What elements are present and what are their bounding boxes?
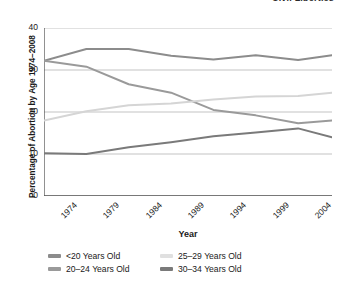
x-axis-title: Year [44,229,332,239]
x-tick-label-1994: 1994 [228,200,248,220]
y-tick-label-10: 10 [12,149,38,158]
x-tick-label-1989: 1989 [186,200,206,220]
y-tick-label-40: 40 [12,23,38,32]
legend-item-1: 25–29 Years Old [160,251,286,261]
y-tick-label-30: 30 [12,65,38,74]
series-line-2 [44,93,332,121]
x-tick-label-1984: 1984 [143,200,163,220]
legend-item-3: 30–34 Years Old [160,264,286,274]
abortion-by-age-line-chart: Civil Liberties Percentage of Abortion b… [0,0,344,281]
y-tick-label-20: 20 [12,107,38,116]
legend-swatch-icon [48,254,61,258]
legend-swatch-icon [160,254,173,258]
x-tick-label-1974: 1974 [59,200,79,220]
y-axis-tick-labels: 010203040 [8,28,38,196]
chart-legend: <20 Years Old25–29 Years Old20–24 Years … [48,249,298,275]
y-tick-label-0: 0 [12,191,38,200]
legend-item-0: <20 Years Old [48,251,160,261]
legend-item-label: <20 Years Old [66,251,120,261]
x-tick-label-1979: 1979 [101,200,121,220]
page-header-title: Civil Liberties [272,0,334,3]
x-tick-label-1999: 1999 [270,200,290,220]
legend-item-2: 20–24 Years Old [48,264,160,274]
x-axis-tick-labels: 19741979198419891994199920042008 [44,196,332,230]
series-line-3 [44,128,332,154]
legend-swatch-icon [48,267,61,271]
plot-area [44,28,332,196]
data-series-group [44,49,332,154]
series-line-0 [44,49,332,61]
legend-item-label: 25–29 Years Old [178,251,242,261]
legend-item-label: 20–24 Years Old [66,264,130,274]
x-tick-label-2004: 2004 [313,200,333,220]
legend-swatch-icon [160,267,173,271]
legend-item-label: 30–34 Years Old [178,264,242,274]
plot-svg [44,28,332,196]
